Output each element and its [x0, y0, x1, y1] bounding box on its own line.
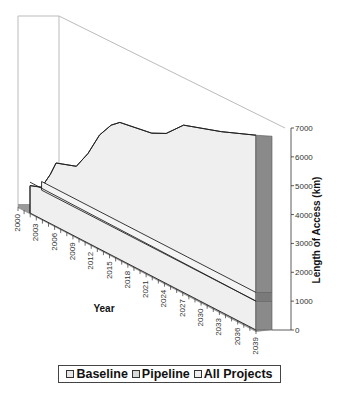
y-axis: 01000200030004000500060007000: [272, 124, 313, 335]
x-tick-label: 2030: [196, 308, 205, 326]
x-tick-label: 2018: [123, 270, 132, 288]
legend-swatch-baseline: [66, 370, 74, 378]
x-axis-title: Year: [93, 303, 114, 314]
legend-item-baseline: Baseline: [66, 367, 127, 381]
x-tick-label: 2039: [251, 336, 260, 354]
x-tick-label: 2021: [141, 280, 150, 298]
side-face-bands: [256, 292, 272, 301]
x-tick-label: 2012: [86, 251, 95, 269]
legend-item-all-projects: All Projects: [194, 367, 273, 381]
legend-label-all-projects: All Projects: [204, 367, 273, 381]
y-tick-label: 7000: [295, 124, 313, 133]
y-tick-label: 0: [295, 326, 300, 335]
x-tick-label: 2027: [178, 299, 187, 317]
y-axis-title: Length of Access (km): [311, 177, 322, 284]
x-tick-label: 2009: [68, 242, 77, 260]
side-band-pipeline: [256, 292, 272, 301]
chart-3d-area: 01000200030004000500060007000 Length of …: [0, 0, 337, 400]
legend-item-pipeline: Pipeline: [132, 367, 190, 381]
legend-swatch-all-projects: [194, 370, 202, 378]
legend-label-pipeline: Pipeline: [142, 367, 190, 381]
legend-label-baseline: Baseline: [76, 367, 127, 381]
x-tick-label: 2015: [105, 261, 114, 279]
y-tick-label: 1000: [295, 297, 313, 306]
x-tick-label: 2003: [31, 223, 40, 241]
legend: Baseline Pipeline All Projects: [58, 365, 281, 383]
x-tick-label: 2006: [50, 232, 59, 250]
y-tick-label: 6000: [295, 153, 313, 162]
x-tick-label: 2000: [13, 213, 22, 231]
x-tick-label: 2033: [214, 318, 223, 336]
legend-swatch-pipeline: [132, 370, 140, 378]
x-tick-label: 2024: [159, 289, 168, 307]
x-tick-label: 2036: [233, 327, 242, 345]
